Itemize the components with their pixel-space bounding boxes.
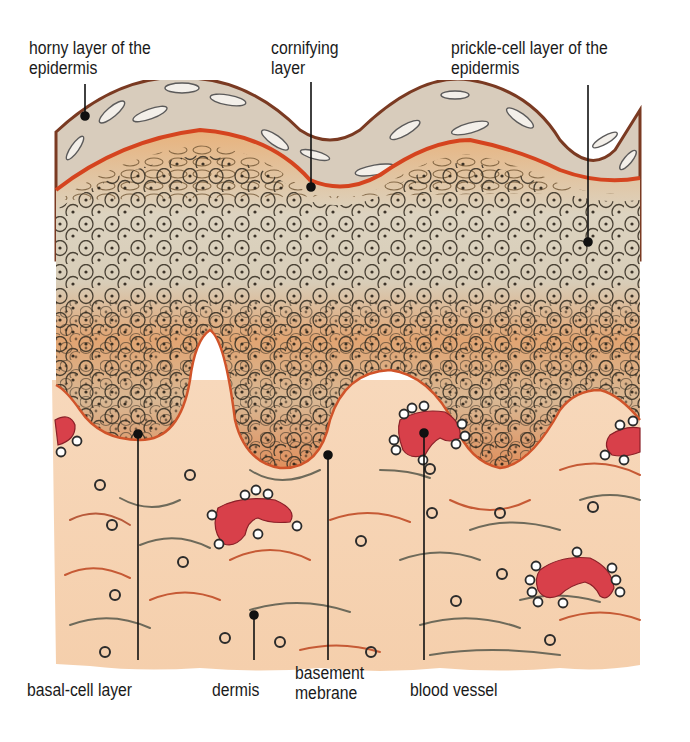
label-horny-layer: horny layer of the epidermis xyxy=(29,38,151,78)
skin-illustration xyxy=(0,0,690,742)
label-dermis: dermis xyxy=(212,680,259,700)
label-basal-cell-layer: basal-cell layer xyxy=(27,680,132,700)
label-basement-membrane: basement mebrane xyxy=(295,663,364,703)
skin-cross-section-diagram: horny layer of the epidermis cornifying … xyxy=(0,0,690,742)
label-cornifying-layer: cornifying layer xyxy=(271,38,338,78)
label-prickle-cell-layer: prickle-cell layer of the epidermis xyxy=(451,38,608,78)
label-blood-vessel: blood vessel xyxy=(410,680,498,700)
leader-horny-layer xyxy=(81,84,89,120)
